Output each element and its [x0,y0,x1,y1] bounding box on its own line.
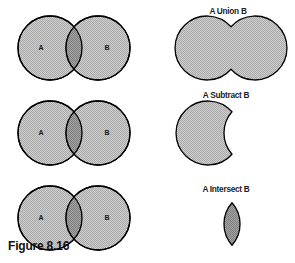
union-outline [175,16,287,80]
figure-canvas: A B A B A B [0,0,295,263]
venn-bottom-label-b: B [104,214,109,221]
venn-bottom-label-a: A [38,214,43,221]
venn-top-label-b: B [104,44,109,51]
label-a-subtract-b: A Subtract B [180,90,272,100]
figure-8-16: A B A B A B [0,0,295,263]
label-a-intersect-b: A Intersect B [180,184,272,194]
shape-intersect [224,203,240,245]
subtract-outline [176,101,232,165]
intersect-outline [224,203,240,245]
venn-diagram-top: A B [18,16,130,80]
shape-subtract [176,101,232,165]
shape-union [175,16,287,80]
venn-middle-label-a: A [38,129,43,136]
figure-caption: Figure 8.16 [8,239,69,253]
venn-middle-label-b: B [104,129,109,136]
venn-top-label-a: A [38,44,43,51]
venn-diagram-middle: A B [18,101,130,165]
label-a-union-b: A Union B [184,6,272,16]
